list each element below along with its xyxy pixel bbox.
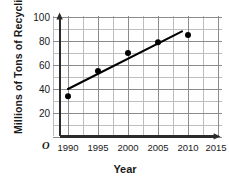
grid-lines-major (53, 16, 222, 137)
data-point (185, 32, 191, 38)
data-point (95, 68, 101, 74)
plot-area (0, 0, 229, 183)
trend-line (68, 31, 182, 89)
data-point (155, 39, 161, 45)
data-point (125, 50, 131, 56)
grid-lines-minor (53, 16, 222, 137)
recycling-scatter-chart: Millions of Tons of Recycling 100 80 60 … (0, 0, 229, 183)
axis-lines (56, 13, 220, 140)
data-point (65, 93, 71, 99)
